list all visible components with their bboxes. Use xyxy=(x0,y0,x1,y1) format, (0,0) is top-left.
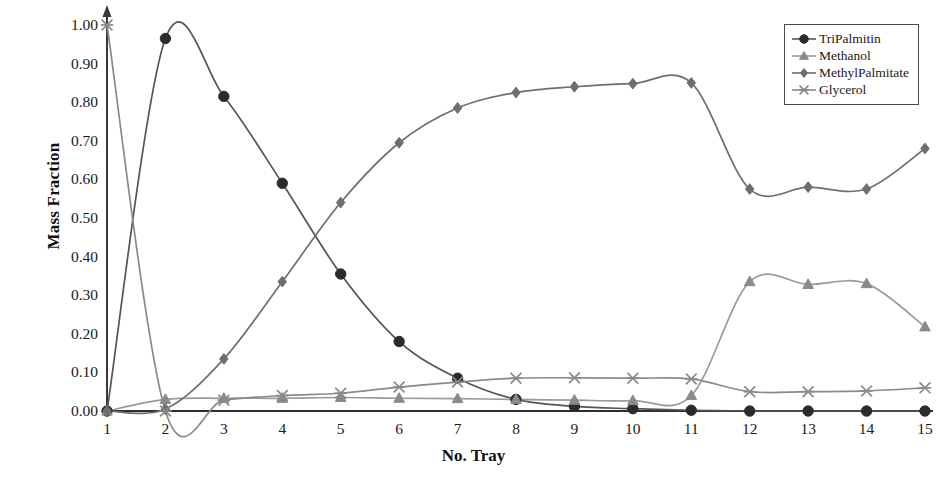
x-tick-label: 12 xyxy=(730,421,770,437)
chart-legend: TriPalmitinMethanolMethylPalmitateGlycer… xyxy=(784,24,919,105)
x-axis-title-text: No. Tray xyxy=(442,446,506,466)
marker-diamond xyxy=(801,68,808,77)
x-tick-label: 8 xyxy=(496,421,536,437)
x-tick-label: 15 xyxy=(905,421,937,437)
legend-marker-diamond-icon xyxy=(791,66,817,80)
x-tick-label: 7 xyxy=(438,421,478,437)
legend-item[interactable]: TriPalmitin xyxy=(791,30,909,47)
legend-marker-circle-icon xyxy=(791,32,817,46)
legend-marker-cross-icon xyxy=(791,83,817,97)
legend-item-label: MethylPalmitate xyxy=(819,66,909,80)
x-axis-title: No. Tray xyxy=(0,446,937,466)
x-tick-label: 4 xyxy=(262,421,302,437)
marker-cross xyxy=(799,85,809,94)
legend-item[interactable]: Glycerol xyxy=(791,81,909,98)
x-tick-label: 11 xyxy=(671,421,711,437)
x-tick-label: 1 xyxy=(87,421,127,437)
x-tick-label: 3 xyxy=(204,421,244,437)
x-tick-label: 10 xyxy=(613,421,653,437)
legend-item-label: Glycerol xyxy=(819,83,866,97)
legend-marker-triangle-icon xyxy=(791,49,817,63)
legend-item[interactable]: MethylPalmitate xyxy=(791,64,909,81)
x-tick-label: 14 xyxy=(847,421,887,437)
marker-circle xyxy=(800,34,809,43)
x-tick-label: 13 xyxy=(788,421,828,437)
legend-item-label: Methanol xyxy=(819,49,871,63)
x-tick-label: 5 xyxy=(321,421,361,437)
legend-item[interactable]: Methanol xyxy=(791,47,909,64)
x-tick-label: 2 xyxy=(145,421,185,437)
legend-item-label: TriPalmitin xyxy=(819,32,881,46)
x-tick-label: 6 xyxy=(379,421,419,437)
x-tick-label: 9 xyxy=(554,421,594,437)
chart-figure: Mass Fraction 0.000.100.200.300.400.500.… xyxy=(0,0,937,491)
